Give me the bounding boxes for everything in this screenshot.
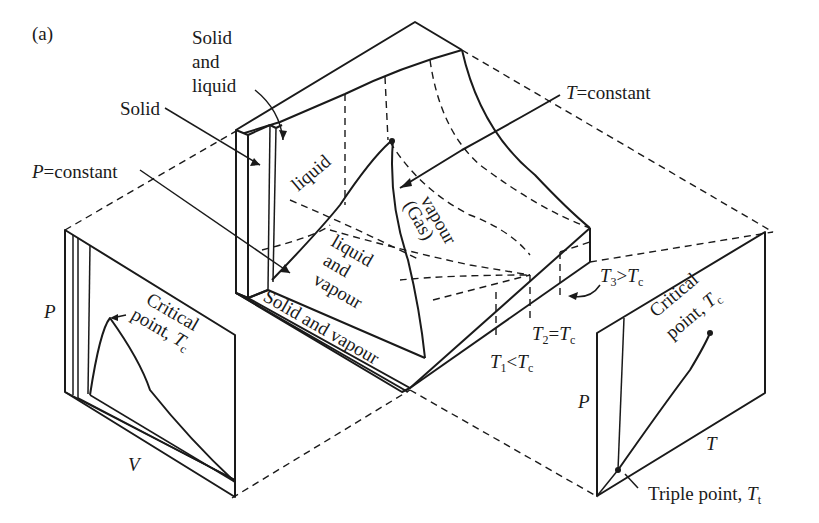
pv-projection bbox=[65, 230, 235, 497]
pv-axis-v: V bbox=[128, 454, 142, 475]
label-solid-and-vapour: Solid and vapour bbox=[260, 285, 384, 368]
pv-axis-p: P bbox=[43, 301, 56, 322]
pvt-diagram: (a) Solid and liquid Solid P=constant T=… bbox=[0, 0, 819, 523]
label-solid-and-liquid-2: and bbox=[192, 51, 220, 72]
panel-label: (a) bbox=[32, 23, 53, 45]
label-solid: Solid bbox=[120, 98, 161, 119]
label-solid-and-liquid-1: Solid bbox=[192, 27, 233, 48]
label-p-constant: P=constant bbox=[31, 161, 118, 182]
label-solid-and-liquid-3: liquid bbox=[192, 75, 237, 96]
pt-axis-t: T bbox=[706, 433, 718, 454]
label-t1: T1<Tc bbox=[490, 351, 533, 375]
pt-axis-p: P bbox=[577, 391, 590, 412]
label-t2: T2=Tc bbox=[532, 323, 575, 347]
leader-arrows bbox=[140, 90, 600, 300]
label-liquid: liquid bbox=[287, 150, 335, 195]
label-t-constant: T=constant bbox=[566, 82, 651, 103]
pt-triple-point: Triple point, Tt bbox=[648, 483, 762, 507]
label-t3: T3>Tc bbox=[600, 265, 643, 289]
